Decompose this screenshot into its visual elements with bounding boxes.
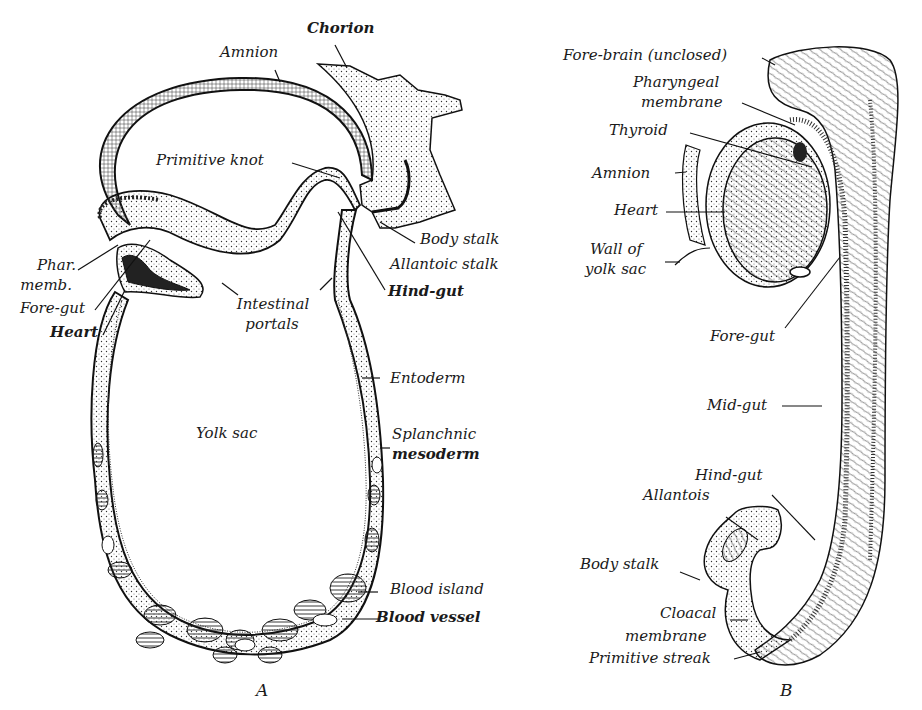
label-primitive-streak: Primitive streak (589, 650, 711, 667)
label-body-stalk-b: Body stalk (580, 556, 659, 573)
heart-b (723, 138, 827, 282)
label-hind-gut-a: Hind-gut (388, 283, 464, 300)
label-intestinal-portals-2: portals (232, 316, 312, 333)
label-primitive-knot: Primitive knot (156, 152, 264, 169)
label-phar-memb-2: memb. (14, 277, 72, 294)
label-fore-gut-a: Fore-gut (20, 300, 85, 317)
label-allantoic-stalk: Allantoic stalk (390, 256, 499, 273)
label-fore-gut-b: Fore-gut (710, 328, 775, 345)
label-phar-memb-1: Phar. (18, 257, 76, 274)
label-chorion: Chorion (307, 20, 374, 37)
label-pharyngeal-1: Pharyngeal (633, 74, 719, 91)
panel-letter-b: B (780, 680, 793, 700)
label-entoderm: Entoderm (390, 370, 466, 387)
label-thyroid: Thyroid (609, 122, 668, 139)
label-intestinal-portals-1: Intestinal (228, 296, 318, 313)
label-amnion-a: Amnion (220, 44, 278, 61)
label-body-stalk-a: Body stalk (420, 231, 499, 248)
label-mid-gut: Mid-gut (707, 397, 767, 414)
label-cloacal-1: Cloacal (660, 605, 716, 622)
panel-b-drawing (665, 47, 898, 665)
label-amnion-b: Amnion (592, 165, 650, 182)
label-blood-vessel: Blood vessel (376, 609, 481, 626)
embryo-diagram-art (0, 0, 922, 710)
label-cloacal-2: membrane (625, 628, 707, 645)
label-yolk-sac: Yolk sac (196, 425, 257, 442)
label-fore-brain: Fore-brain (unclosed) (563, 47, 727, 64)
embryonic-disc (100, 168, 360, 254)
label-splanchnic-2: mesoderm (392, 446, 480, 463)
label-allantois: Allantois (643, 487, 710, 504)
label-heart-a: Heart (50, 324, 98, 341)
label-hind-gut-b: Hind-gut (695, 467, 763, 484)
label-splanchnic-1: Splanchnic (392, 426, 476, 443)
label-heart-b: Heart (614, 202, 658, 219)
label-blood-island: Blood island (390, 581, 484, 598)
label-wall-of-yolk-sac-1: Wall of (590, 241, 642, 258)
panel-letter-a: A (256, 680, 268, 700)
label-pharyngeal-2: membrane (641, 94, 723, 111)
chorion-body-stalk (318, 64, 462, 228)
label-wall-of-yolk-sac-2: yolk sac (585, 261, 646, 278)
hindgut-region-b (704, 506, 790, 660)
panel-a-drawing (78, 45, 462, 663)
